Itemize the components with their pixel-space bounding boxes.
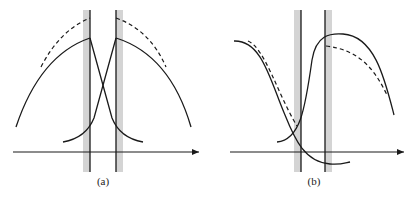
solid-curve-left-peak [16,38,90,127]
solid-curve-right-peak [116,38,191,127]
x-axis-arrow-icon [192,149,199,155]
panel-b [230,10,404,172]
dashed-curve-left [41,18,90,67]
rising-curve-dashed [326,46,387,95]
panel-b-label: (b) [299,175,329,187]
figure-canvas [0,0,411,199]
falling-curve-solid [234,41,350,164]
dashed-curve-right [116,18,166,67]
x-axis-arrow-icon [397,149,404,155]
shaded-band-left [83,10,90,172]
panel-a [13,10,199,172]
panel-a-label: (a) [88,175,118,187]
shaded-band-right [116,10,123,172]
shaded-band-left [294,10,301,172]
